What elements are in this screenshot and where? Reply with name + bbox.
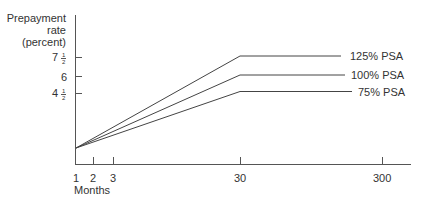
ytick-label-7-5: 712 [52,51,66,65]
ytick-whole: 7 [52,51,58,63]
ytick-label-6: 6 [61,71,67,83]
ytick-label-4-5: 412 [52,87,66,101]
fraction-half: 12 [61,52,66,65]
ylabel-line1: Prepayment [0,12,66,24]
xtick-label-3: 3 [110,172,116,184]
series-label-125: 125% PSA [350,50,403,62]
frac-den: 2 [61,59,66,65]
fraction-half: 12 [61,88,66,101]
ylabel-line3: (percent) [0,36,66,48]
xtick-label-30: 30 [234,172,246,184]
xlabel: Months [74,184,110,196]
series-label-100: 100% PSA [351,69,404,81]
xtick-label-300: 300 [373,172,391,184]
ytick-whole: 4 [52,87,58,99]
frac-den: 2 [61,95,66,101]
series-75-psa [76,92,352,149]
xtick-label-2: 2 [90,172,96,184]
series-100-psa [76,75,345,148]
xtick-label-1: 1 [73,172,79,184]
ylabel-line2: rate [0,24,66,36]
series-label-75: 75% PSA [358,86,405,98]
